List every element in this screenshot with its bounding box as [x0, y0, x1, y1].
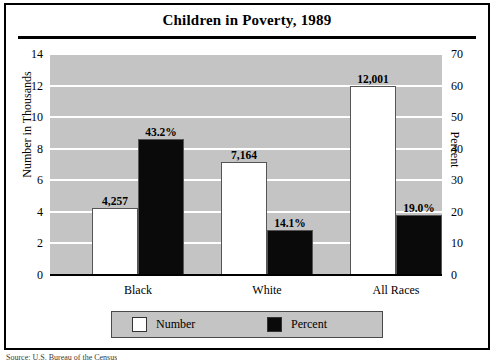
bar-percent[interactable]: 43.2%	[138, 139, 184, 275]
legend-swatch-percent	[267, 317, 282, 332]
y-tick-right: 60	[451, 80, 463, 92]
y-tick-right: 10	[451, 237, 463, 249]
bar-group: 7,16414.1%White	[221, 54, 313, 275]
y-tick-right: 30	[451, 174, 463, 186]
page-title: Children in Poverty, 1989	[163, 12, 332, 29]
bar-group: 4,25743.2%Black	[92, 54, 184, 275]
legend-swatch-number	[132, 317, 147, 332]
y-tick-left: 12	[31, 80, 43, 92]
bar-value-label: 19.0%	[403, 202, 435, 214]
x-axis-category-label: All Races	[373, 283, 420, 298]
plot-area: 002104206308401050126014704,25743.2%Blac…	[50, 54, 442, 275]
bar-value-label: 7,164	[231, 149, 257, 161]
chart-legend: Number Percent	[111, 311, 383, 338]
bar-value-label: 14.1%	[274, 217, 306, 229]
y-tick-left: 4	[37, 206, 43, 218]
bar-number[interactable]: 4,257	[92, 208, 138, 275]
bar-percent[interactable]: 14.1%	[267, 230, 313, 275]
bar-percent[interactable]: 19.0%	[396, 215, 442, 275]
bar-number[interactable]: 12,001	[350, 86, 396, 275]
y-tick-left: 6	[37, 174, 43, 186]
y-tick-right: 70	[451, 48, 463, 60]
legend-label-number: Number	[156, 317, 195, 332]
x-axis-category-label: White	[252, 283, 281, 298]
bar-value-label: 12,001	[357, 73, 389, 85]
y-tick-right: 20	[451, 206, 463, 218]
y-tick-left: 0	[37, 269, 43, 281]
y-axis-title-left: Number in Thousands	[20, 50, 35, 200]
x-axis-category-label: Black	[124, 283, 152, 298]
source-caption: Source: U.S. Bureau of the Census	[6, 353, 117, 360]
title-divider	[18, 36, 476, 39]
y-tick-left: 14	[31, 48, 43, 60]
y-tick-right: 40	[451, 143, 463, 155]
y-tick-left: 8	[37, 143, 43, 155]
bar-value-label: 4,257	[102, 195, 128, 207]
bar-value-label: 43.2%	[145, 126, 177, 138]
bar-number[interactable]: 7,164	[221, 162, 267, 275]
x-axis-line	[50, 274, 442, 276]
y-tick-left: 10	[31, 111, 43, 123]
title-band: Children in Poverty, 1989	[6, 5, 488, 36]
y-tick-right: 0	[451, 269, 457, 281]
y-tick-right: 50	[451, 111, 463, 123]
chart-figure: Children in Poverty, 1989 Number in Thou…	[4, 3, 490, 350]
legend-label-percent: Percent	[291, 317, 327, 332]
legend-item-percent[interactable]: Percent	[267, 317, 327, 332]
bar-group: 12,00119.0%All Races	[350, 54, 442, 275]
legend-item-number[interactable]: Number	[132, 317, 195, 332]
y-tick-left: 2	[37, 237, 43, 249]
